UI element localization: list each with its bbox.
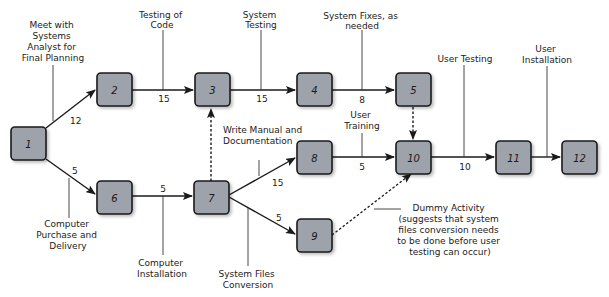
node-label: 6 (111, 193, 117, 204)
node-label: 12 (573, 153, 586, 164)
edge-1-6 (46, 159, 95, 194)
node-label: 7 (208, 193, 215, 204)
edge-7-9 (229, 197, 295, 234)
node-3: 3 (195, 73, 230, 106)
weight-1-2: 12 (70, 116, 81, 126)
annotation-system-files: System Files Conversion (218, 269, 277, 290)
annotation-write-manual: Write Manual and Documentation (223, 125, 305, 146)
annotation-user-training: User Training (343, 110, 380, 131)
annotation-dummy-activity: Dummy Activity (suggests that system fil… (397, 203, 503, 257)
weight-3-4: 15 (256, 94, 267, 104)
node-label: 1 (25, 139, 31, 150)
node-11: 11 (496, 141, 531, 174)
node-12: 12 (562, 141, 597, 174)
weight-1-6: 5 (72, 166, 78, 176)
node-label: 8 (311, 153, 317, 164)
node-label: 2 (111, 85, 117, 96)
annotation-computer-purchase: Computer Purchase and Delivery (36, 219, 100, 251)
annotation-system-testing: System Testing (243, 10, 279, 30)
annotation-system-fixes: System Fixes, as needed (323, 11, 401, 31)
weight-7-8: 15 (272, 178, 283, 188)
node-7: 7 (194, 181, 229, 214)
node-5: 5 (396, 73, 431, 106)
node-6: 6 (97, 181, 132, 214)
node-label: 10 (407, 153, 420, 164)
node-label: 4 (311, 85, 317, 96)
node-10: 10 (396, 141, 431, 174)
annotation-user-installation: User Installation (522, 44, 572, 65)
annotation-computer-installation: Computer Installation (137, 258, 187, 279)
edge-7-8 (229, 158, 295, 195)
weight-6-7: 5 (160, 184, 166, 194)
node-label: 3 (209, 85, 215, 96)
node-label: 5 (410, 85, 416, 96)
node-9: 9 (297, 219, 332, 252)
annotation-user-testing: User Testing (437, 54, 492, 64)
annotation-testing-code: Testing of Code (138, 10, 185, 30)
node-label: 9 (311, 231, 317, 242)
annotation-meet-planning: Meet with Systems Analyst for Final Plan… (22, 20, 84, 63)
node-2: 2 (97, 73, 132, 106)
node-1: 1 (11, 127, 46, 160)
pert-diagram: 123456789101112 12 15 15 8 5 5 15 5 5 10… (0, 0, 609, 297)
weight-4-5: 8 (359, 95, 365, 105)
weight-7-9: 5 (276, 213, 282, 223)
nodes: 123456789101112 (11, 73, 597, 252)
weight-10-11: 10 (459, 162, 471, 172)
weight-2-3: 15 (158, 94, 169, 104)
weight-8-10: 5 (359, 162, 365, 172)
node-4: 4 (297, 73, 332, 106)
node-8: 8 (297, 141, 332, 174)
node-label: 11 (507, 153, 520, 164)
